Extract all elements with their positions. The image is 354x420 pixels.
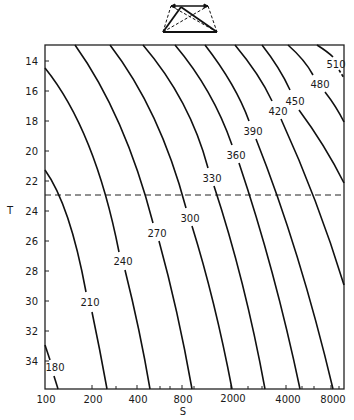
y-tick-label: 34 <box>25 356 38 367</box>
curve-270 <box>159 241 192 389</box>
curve-510 <box>339 70 344 78</box>
curve-label-450: 450 <box>285 96 304 107</box>
curve-420 <box>235 45 272 101</box>
curve-label-300: 300 <box>180 213 199 224</box>
curve-label-390: 390 <box>243 126 262 137</box>
curve-270 <box>75 45 153 223</box>
x-tick-label: 100 <box>36 394 55 405</box>
curve-330 <box>214 186 265 389</box>
x-tick-label: 200 <box>83 394 102 405</box>
curve-450 <box>299 110 344 183</box>
curve-240 <box>125 270 150 389</box>
x-tick-label: 400 <box>128 394 147 405</box>
curve-210 <box>45 170 86 292</box>
curve-labels: 180 210 240 270 300 330 360 390 420 450 … <box>45 59 345 373</box>
curve-label-270: 270 <box>147 228 166 239</box>
curve-300 <box>192 226 232 389</box>
x-tick-label: 8000 <box>320 394 345 405</box>
y-tick-label: 14 <box>25 56 38 67</box>
curve-450 <box>262 45 290 90</box>
y-axis-title: T <box>6 205 14 216</box>
curve-label-210: 210 <box>80 297 99 308</box>
curve-390 <box>205 45 249 121</box>
curve-label-330: 330 <box>202 173 221 184</box>
curve-180 <box>54 376 58 389</box>
curve-240 <box>45 68 119 252</box>
curve-420 <box>281 119 344 285</box>
curve-label-420: 420 <box>268 106 287 117</box>
curve-label-240: 240 <box>113 256 132 267</box>
trapezoid-diagram-icon <box>163 4 217 32</box>
y-tick-label: 26 <box>25 236 38 247</box>
x-tick-labels: 100 200 400 800 2000 4000 8000 <box>36 393 345 405</box>
curve-480 <box>288 45 313 75</box>
y-tick-label: 16 <box>25 86 38 97</box>
curve-390 <box>256 139 333 389</box>
curve-label-360: 360 <box>226 150 245 161</box>
y-tick-label: 18 <box>25 116 38 127</box>
curve-360 <box>175 45 232 145</box>
y-tick-label: 28 <box>25 266 38 277</box>
curve-label-180: 180 <box>45 362 64 373</box>
x-tick-label: 4000 <box>275 394 300 405</box>
y-tick-label: 22 <box>25 176 38 187</box>
x-axis-title: S <box>180 406 186 417</box>
y-tick-label: 30 <box>25 296 38 307</box>
y-tick-label: 32 <box>25 326 38 337</box>
curve-510 <box>317 45 333 57</box>
curve-360 <box>239 163 300 389</box>
contour-chart: 14 16 18 20 22 24 26 28 30 32 34 100 200… <box>0 0 354 420</box>
curve-330 <box>143 45 208 168</box>
y-tick-labels: 14 16 18 20 22 24 26 28 30 32 34 <box>25 56 38 367</box>
curve-label-510: 510 <box>326 59 345 70</box>
curve-210 <box>92 312 107 389</box>
x-tick-label: 2000 <box>220 393 245 404</box>
x-tick-label: 800 <box>173 394 192 405</box>
curve-300 <box>110 45 186 208</box>
curve-180 <box>45 345 50 360</box>
curve-label-480: 480 <box>310 79 329 90</box>
y-tick-label: 24 <box>25 206 38 217</box>
y-tick-label: 20 <box>25 146 38 157</box>
curve-480 <box>325 92 344 122</box>
